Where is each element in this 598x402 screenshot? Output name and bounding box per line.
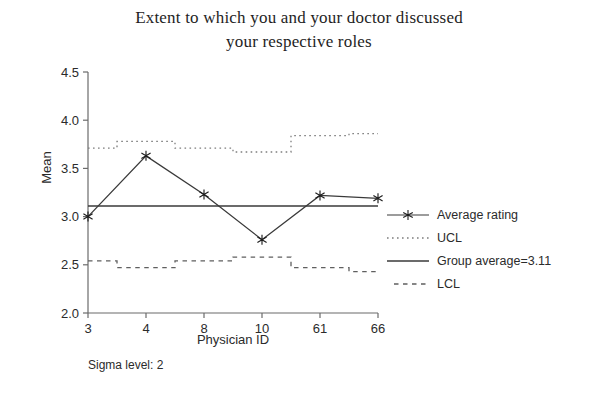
y-tick-label: 4.0 bbox=[61, 113, 79, 128]
legend-label-ucl: UCL bbox=[437, 231, 462, 245]
legend-key-solid-icon bbox=[386, 254, 430, 268]
sigma-level-note: Sigma level: 2 bbox=[88, 358, 163, 372]
y-axis-label: Mean bbox=[39, 128, 54, 208]
data-point-marker bbox=[199, 189, 208, 199]
legend-item-ucl: UCL bbox=[386, 226, 594, 249]
lcl-step-line bbox=[88, 257, 378, 271]
series-average-rating bbox=[83, 151, 382, 245]
series-ucl bbox=[88, 134, 378, 152]
legend-key-dashed-icon bbox=[386, 277, 430, 291]
legend-key-dotted-icon bbox=[386, 231, 430, 245]
legend-item-average-rating: Average rating bbox=[386, 203, 594, 226]
chart-legend: Average rating UCL Group average=3.11 bbox=[386, 203, 594, 295]
legend-label-group-average: Group average=3.11 bbox=[437, 254, 551, 268]
legend-label-lcl: LCL bbox=[437, 277, 460, 291]
y-tick-label: 3.0 bbox=[61, 209, 79, 224]
data-point-marker bbox=[257, 235, 266, 245]
axes bbox=[88, 72, 378, 313]
legend-item-lcl: LCL bbox=[386, 272, 594, 295]
ucl-step-line bbox=[88, 134, 378, 152]
control-chart: Extent to which you and your doctor disc… bbox=[0, 0, 598, 402]
y-tick-label: 4.5 bbox=[61, 65, 79, 80]
average-rating-line bbox=[88, 156, 378, 240]
series-lcl bbox=[88, 257, 378, 271]
y-tick-label: 2.0 bbox=[61, 306, 79, 321]
y-tick-label: 2.5 bbox=[61, 257, 79, 272]
y-tick-label: 3.5 bbox=[61, 161, 79, 176]
legend-label-average-rating: Average rating bbox=[437, 208, 518, 222]
legend-key-line-star-icon bbox=[386, 208, 430, 222]
x-axis-label: Physician ID bbox=[88, 332, 378, 347]
y-axis-ticks: 2.02.53.03.54.04.5 bbox=[61, 65, 88, 321]
legend-item-group-average: Group average=3.11 bbox=[386, 249, 594, 272]
